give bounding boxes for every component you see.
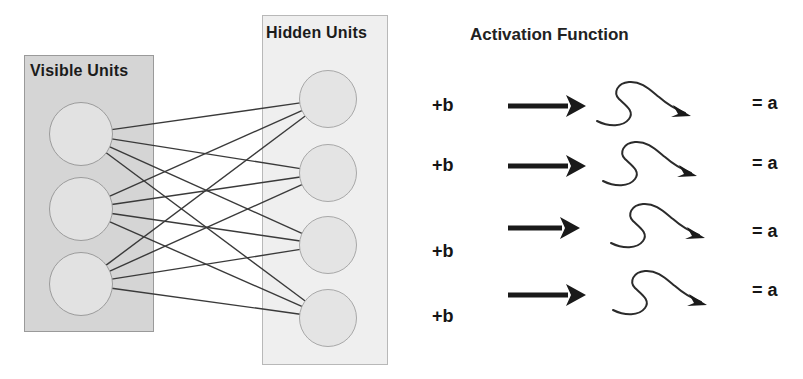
- activation-function-title: Activation Function: [470, 25, 629, 45]
- right-arrow-icon: [508, 153, 594, 179]
- hidden-unit-3: [299, 216, 357, 274]
- hidden-unit-4: [299, 289, 357, 347]
- visible-unit-3: [49, 252, 113, 316]
- activation-squiggle-icon: [611, 266, 723, 322]
- hidden-unit-2: [299, 144, 357, 202]
- bias-label: +b: [432, 306, 454, 327]
- bias-label: +b: [432, 95, 454, 116]
- right-arrow-icon: [508, 282, 594, 308]
- result-label: = a: [752, 221, 778, 242]
- visible-units-label: Visible Units: [30, 62, 128, 80]
- activation-function-panel: Activation Function +b= a+b= a+b= a+b= a: [420, 0, 803, 379]
- result-label: = a: [752, 153, 778, 174]
- result-label: = a: [752, 93, 778, 114]
- visible-unit-2: [49, 177, 113, 241]
- activation-row: +b= a: [420, 207, 803, 267]
- right-arrow-icon: [508, 93, 594, 119]
- result-label: = a: [752, 280, 778, 301]
- bias-label: +b: [432, 241, 454, 262]
- hidden-unit-1: [299, 70, 357, 128]
- activation-squiggle-icon: [595, 77, 707, 133]
- activation-row: +b= a: [420, 75, 803, 135]
- bias-label: +b: [432, 155, 454, 176]
- activation-row: +b= a: [420, 135, 803, 195]
- hidden-units-label: Hidden Units: [266, 24, 367, 42]
- activation-squiggle-icon: [601, 137, 713, 193]
- activation-squiggle-icon: [609, 199, 721, 255]
- right-arrow-icon: [508, 215, 588, 241]
- rbm-activation-diagram: Visible Units Hidden Units Activation Fu…: [0, 0, 803, 379]
- activation-row: +b= a: [420, 272, 803, 332]
- visible-unit-1: [49, 102, 113, 166]
